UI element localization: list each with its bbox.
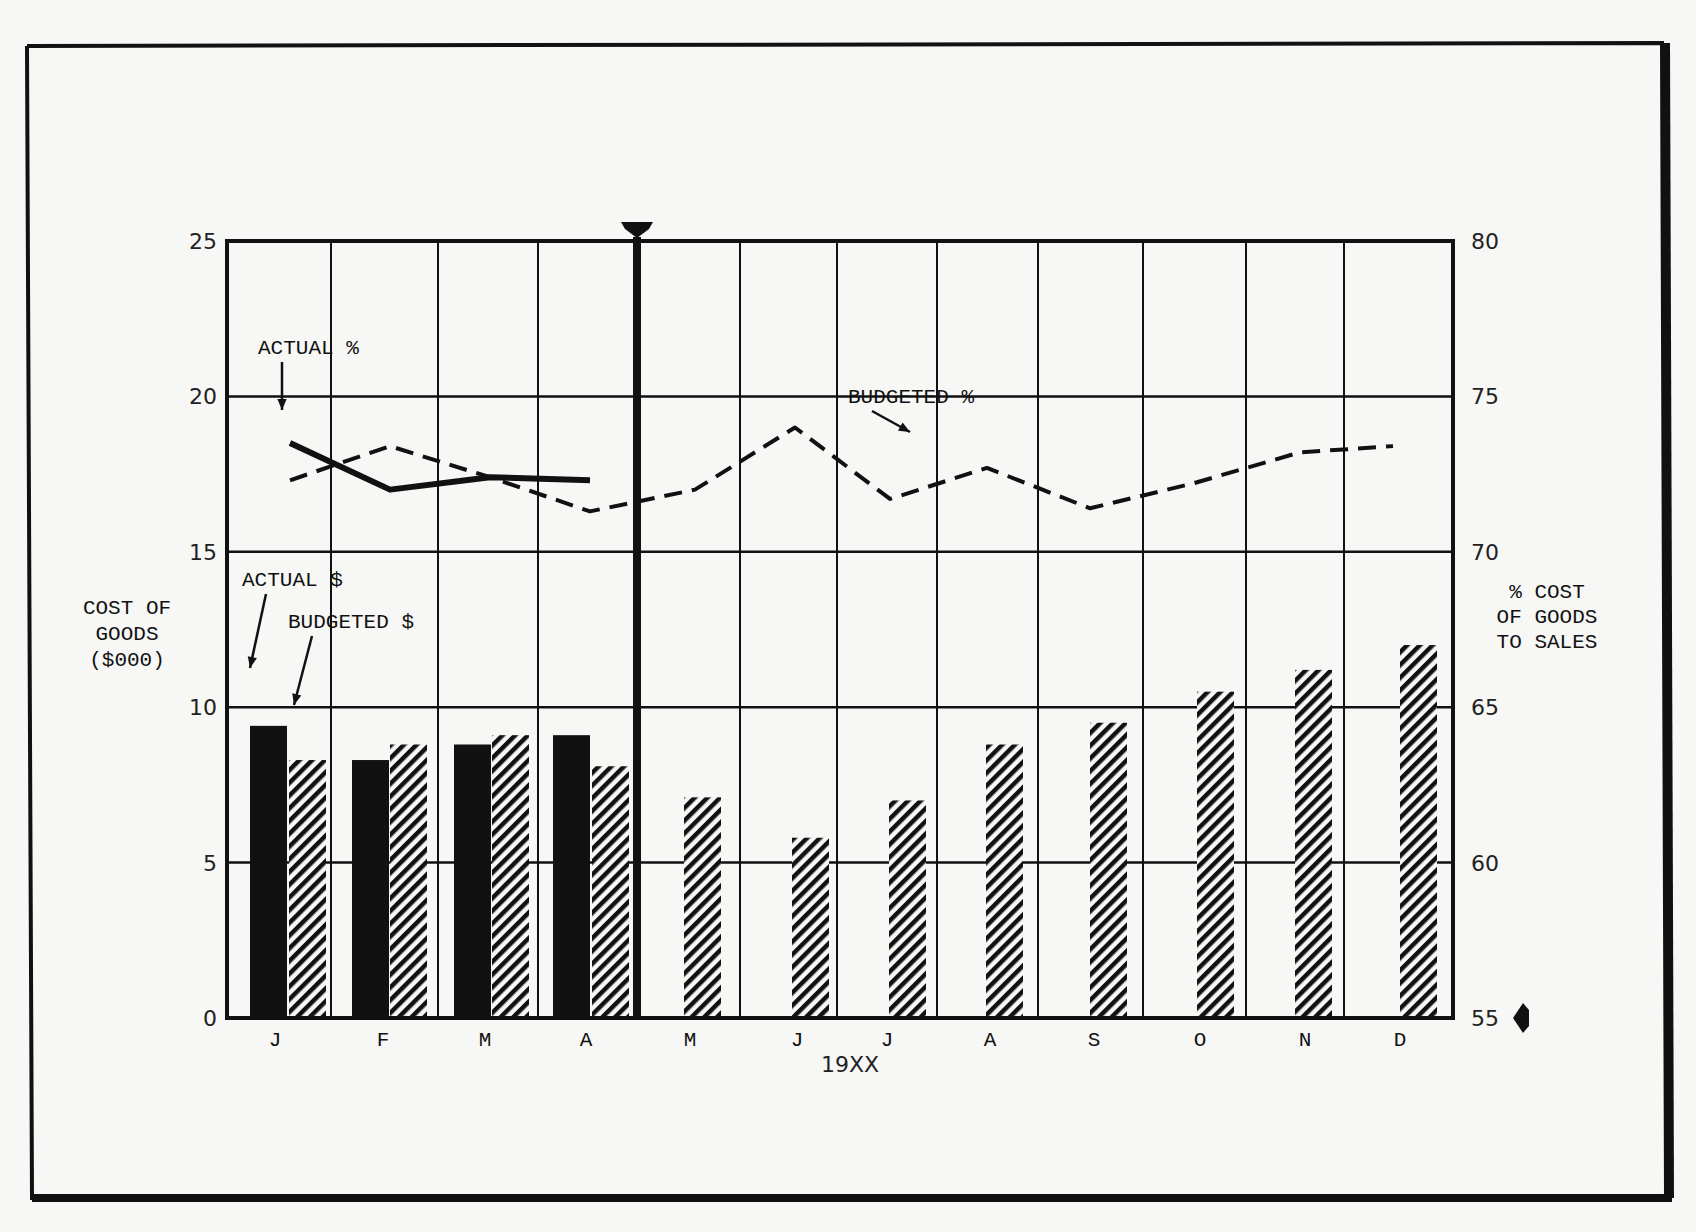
budgeted-dollar-bar — [986, 744, 1023, 1018]
left-axis-title-line3: ($000) — [89, 649, 165, 672]
actual-dollar-bar — [250, 726, 287, 1018]
month-label: O — [1194, 1029, 1207, 1052]
right-axis-tick: 65 — [1471, 695, 1499, 720]
left-axis-tick: 10 — [189, 695, 217, 720]
month-label: S — [1088, 1029, 1101, 1052]
arrowhead-icon — [277, 399, 286, 410]
budgeted-dollar-bar — [889, 800, 926, 1018]
right-axis-tick: 75 — [1471, 384, 1499, 409]
budgeted-dollar-bar — [1197, 692, 1234, 1018]
month-label: M — [684, 1029, 697, 1052]
right-axis-title-line2: OF GOODS — [1497, 606, 1598, 629]
right-axis-tick: 55 — [1471, 1006, 1499, 1031]
actual-percent-line — [290, 443, 590, 490]
actual-dollar-bar — [352, 760, 389, 1018]
budgeted-dollar-bar — [289, 760, 326, 1018]
chart-root: 0510152025556065707580JFMAMJJASOND ACTUA… — [0, 0, 1696, 1232]
month-label: J — [791, 1029, 804, 1052]
left-axis-tick: 25 — [189, 229, 217, 254]
budgeted-dollar-bar — [684, 797, 721, 1018]
outer-border — [27, 43, 1672, 1198]
right-axis-tick: 80 — [1471, 229, 1499, 254]
right-axis-title-line1: % COST — [1509, 581, 1585, 604]
month-label: J — [881, 1029, 894, 1052]
budgeted-dollar-bar — [390, 744, 427, 1018]
budgeted-dollar-bar — [592, 766, 629, 1018]
month-label: A — [984, 1029, 997, 1052]
down-arrow-icon — [621, 222, 653, 238]
left-axis-title-line2: GOODS — [95, 623, 158, 646]
left-axis-tick: 15 — [189, 540, 217, 565]
month-label: N — [1299, 1029, 1312, 1052]
x-axis-title: 19XX — [821, 1052, 879, 1077]
bars — [250, 645, 1437, 1018]
left-axis-tick: 20 — [189, 384, 217, 409]
annotation-label: BUDGETED % — [848, 386, 974, 409]
budgeted-dollar-bar — [492, 735, 529, 1018]
annotation-label: ACTUAL $ — [242, 569, 343, 592]
lines — [290, 427, 1393, 511]
budgeted-percent-line — [290, 427, 1393, 511]
left-axis-tick: 5 — [203, 851, 217, 876]
month-label: F — [377, 1029, 390, 1052]
right-axis-tick: 70 — [1471, 540, 1499, 565]
actual-dollar-bar — [454, 744, 491, 1018]
annotation-arrow — [250, 594, 266, 668]
left-arrow-icon — [1513, 1003, 1529, 1033]
budgeted-dollar-bar — [792, 838, 829, 1018]
month-label: J — [269, 1029, 282, 1052]
actual-dollar-bar — [553, 735, 590, 1018]
month-label: M — [479, 1029, 492, 1052]
right-axis-tick: 60 — [1471, 851, 1499, 876]
left-axis-title-line1: COST OF — [83, 597, 171, 620]
cost-of-goods-chart: 0510152025556065707580JFMAMJJASOND ACTUA… — [0, 0, 1696, 1232]
budgeted-dollar-bar — [1400, 645, 1437, 1018]
annotations: ACTUAL %BUDGETED %ACTUAL $BUDGETED $ — [242, 337, 974, 705]
month-label: D — [1394, 1029, 1407, 1052]
annotation-label: BUDGETED $ — [288, 611, 414, 634]
budgeted-dollar-bar — [1090, 723, 1127, 1018]
budgeted-dollar-bar — [1295, 670, 1332, 1018]
month-label: A — [580, 1029, 593, 1052]
annotation-label: ACTUAL % — [258, 337, 359, 360]
right-axis-title-line3: TO SALES — [1497, 631, 1598, 654]
left-axis-tick: 0 — [203, 1006, 217, 1031]
